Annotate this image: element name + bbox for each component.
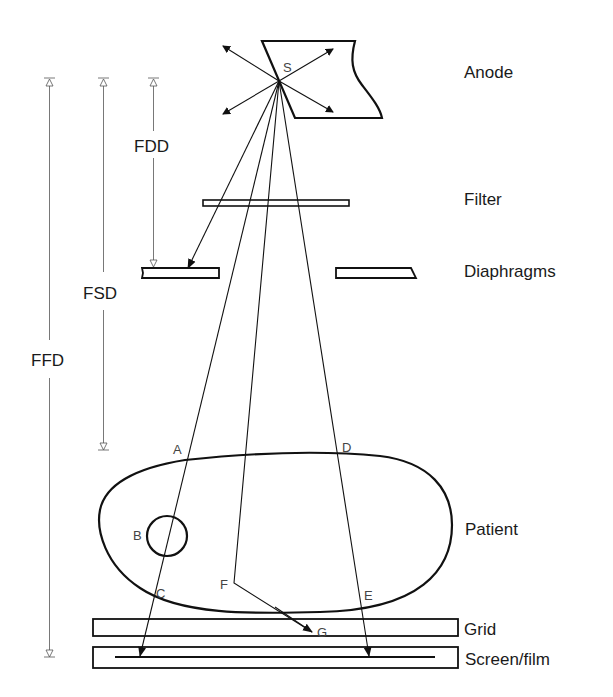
point-e-label: E	[364, 588, 373, 603]
dimension-fsd	[98, 78, 109, 450]
emission-arrows	[223, 46, 333, 114]
diaphragm-right	[336, 268, 416, 278]
ffd-label: FFD	[31, 351, 64, 370]
dimension-fdd	[148, 78, 159, 267]
diaphragm-left	[142, 268, 219, 278]
patient-label: Patient	[465, 520, 518, 539]
patient-shape	[99, 453, 452, 613]
point-f-label: F	[220, 577, 228, 592]
filter-label: Filter	[464, 190, 502, 209]
point-c-label: C	[156, 586, 165, 601]
xray-geometry-diagram: FDD FSD FFD Anode Filter Diaphragms Pati…	[0, 0, 613, 697]
fsd-label: FSD	[83, 284, 117, 303]
fdd-label: FDD	[134, 137, 169, 156]
point-s-label: S	[283, 60, 292, 75]
point-b-label: B	[133, 528, 142, 543]
filter-shape	[203, 200, 349, 206]
anode-shape	[262, 41, 382, 118]
grid-label: Grid	[464, 620, 496, 639]
point-d-label: D	[342, 440, 351, 455]
x-ray-beams	[140, 81, 369, 656]
lesion-circle	[147, 516, 187, 556]
screen-film-label: Screen/film	[465, 650, 550, 669]
point-g-label: G	[317, 625, 327, 640]
point-a-label: A	[173, 442, 182, 457]
grid-shape	[93, 619, 458, 636]
diaphragms-label: Diaphragms	[464, 262, 556, 281]
anode-label: Anode	[464, 63, 513, 82]
